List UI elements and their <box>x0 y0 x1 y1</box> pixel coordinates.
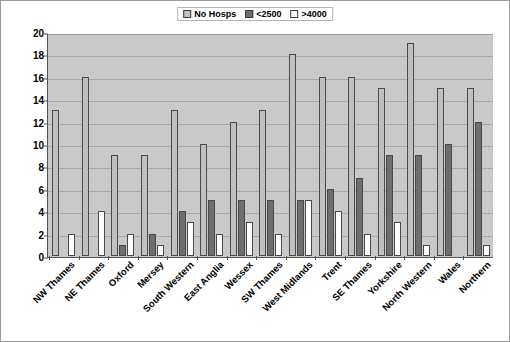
y-axis-tick-mark <box>44 34 48 35</box>
y-axis-tick-mark <box>44 168 48 169</box>
bar <box>289 54 296 256</box>
bar-group <box>434 34 464 256</box>
bar <box>445 144 452 256</box>
y-axis-tick-mark <box>44 235 48 236</box>
bar <box>423 245 430 256</box>
bar <box>119 245 126 256</box>
x-axis-tick-label: Wales <box>436 259 463 286</box>
legend-label-no-hosps: No Hosps <box>194 9 236 19</box>
x-axis-labels: NW ThamesNE ThamesOxfordMerseySouth West… <box>48 259 494 342</box>
bar <box>378 88 385 256</box>
legend-swatch-under-2500 <box>245 10 253 18</box>
x-axis-tick-label: Oxford <box>106 259 136 289</box>
bar <box>415 155 422 256</box>
bar-group <box>138 34 168 256</box>
bar <box>364 234 371 256</box>
legend-label-over-4000: >4000 <box>302 9 327 19</box>
bar <box>68 234 75 256</box>
bar-groups <box>49 34 493 256</box>
bar <box>275 234 282 256</box>
bar <box>407 43 414 256</box>
bar-group <box>345 34 375 256</box>
bar <box>475 122 482 256</box>
y-axis-tick-label: 20 <box>33 29 44 39</box>
bar-group <box>49 34 79 256</box>
bar <box>348 77 355 256</box>
chart-legend: No Hosps <2500 >4000 <box>177 7 333 21</box>
legend-label-under-2500: <2500 <box>256 9 281 19</box>
y-axis-tick-label: 10 <box>33 141 44 151</box>
bar <box>297 200 304 256</box>
bar-group <box>375 34 405 256</box>
bar-group <box>286 34 316 256</box>
bar <box>200 144 207 256</box>
bar <box>319 77 326 256</box>
bar <box>335 211 342 256</box>
plot-wrapper: 02468101214161820 <box>47 34 493 258</box>
y-axis-tick-label: 12 <box>33 119 44 129</box>
bar <box>179 211 186 256</box>
bar-group <box>227 34 257 256</box>
plot-area: 02468101214161820 <box>47 34 493 258</box>
x-axis-tick-label: Northern <box>457 259 493 295</box>
bar <box>141 155 148 256</box>
y-axis-tick-mark <box>44 56 48 57</box>
legend-swatch-no-hosps <box>183 10 191 18</box>
bar <box>259 110 266 256</box>
bar <box>98 211 105 256</box>
bar <box>394 222 401 256</box>
bar <box>386 155 393 256</box>
bar <box>238 200 245 256</box>
bar <box>82 77 89 256</box>
bar <box>157 245 164 256</box>
bar-group <box>315 34 345 256</box>
y-axis-tick-mark <box>44 146 48 147</box>
bar <box>149 234 156 256</box>
bar-group <box>404 34 434 256</box>
y-axis-tick-mark <box>44 213 48 214</box>
bar <box>483 245 490 256</box>
y-axis-tick-mark <box>44 101 48 102</box>
y-axis-tick-label: 14 <box>33 96 44 106</box>
bar <box>52 110 59 256</box>
bar <box>187 222 194 256</box>
bar <box>327 189 334 256</box>
bar-group <box>79 34 109 256</box>
bar-group <box>463 34 493 256</box>
bar <box>208 200 215 256</box>
bar <box>171 110 178 256</box>
bar-group <box>197 34 227 256</box>
bar-group <box>167 34 197 256</box>
bar <box>305 200 312 256</box>
legend-entry-under-2500: <2500 <box>245 9 281 19</box>
bar-chart: No Hosps <2500 >4000 02468101214161820 N… <box>0 0 510 342</box>
bar <box>111 155 118 256</box>
y-axis-tick-mark <box>44 190 48 191</box>
bar <box>356 178 363 256</box>
bar-group <box>108 34 138 256</box>
y-axis-tick-mark <box>44 123 48 124</box>
bar <box>246 222 253 256</box>
bar <box>467 88 474 256</box>
bar <box>437 88 444 256</box>
y-axis-tick-label: 16 <box>33 74 44 84</box>
x-axis-tick-label: Trent <box>320 259 344 283</box>
bar <box>127 234 134 256</box>
bar-group <box>256 34 286 256</box>
legend-swatch-over-4000 <box>291 10 299 18</box>
y-axis-tick-label: 18 <box>33 51 44 61</box>
bar <box>267 200 274 256</box>
bar <box>230 122 237 256</box>
legend-entry-no-hosps: No Hosps <box>183 9 236 19</box>
y-axis-tick-mark <box>44 78 48 79</box>
bar <box>216 234 223 256</box>
legend-entry-over-4000: >4000 <box>291 9 327 19</box>
